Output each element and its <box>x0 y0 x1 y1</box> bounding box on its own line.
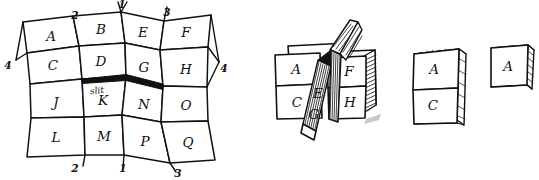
grid-label-D: D <box>95 53 107 69</box>
edge-number-right-4: 4 <box>220 62 227 74</box>
slit-label: slit <box>89 85 104 97</box>
grid-label-B: B <box>95 21 106 37</box>
grid-label-F: F <box>180 24 191 40</box>
stage-nearly-folded: A C <box>413 49 466 125</box>
unfolded-sheet: A B E F C D G H J K N O L M P Q slit 1 2… <box>4 0 227 179</box>
stage-partially-folded: A C E G F H <box>275 20 381 140</box>
edge-number-bottom-3: 3 <box>174 167 181 179</box>
tick-bottom-2 <box>83 155 85 166</box>
grid-label-P: P <box>139 133 150 149</box>
edge-number-bottom-1: 1 <box>119 162 126 174</box>
grid-label-C: C <box>48 57 59 73</box>
paper-folding-illustration: A B E F C D G H J K N O L M P Q slit 1 2… <box>0 0 539 180</box>
grid-label-M: M <box>96 128 112 144</box>
stage3-label-A: A <box>501 58 513 74</box>
figure-root: A B E F C D G H J K N O L M P Q slit 1 2… <box>0 0 539 180</box>
grid-label-O: O <box>180 97 191 113</box>
stage2-label-C: C <box>428 97 439 113</box>
edge-number-top-2: 2 <box>70 9 78 21</box>
stage1-label-A: A <box>289 61 301 77</box>
edge-number-bottom-2: 2 <box>70 162 78 174</box>
stage1-label-E: E <box>312 85 323 101</box>
grid-label-E: E <box>137 24 148 40</box>
grid-label-H: H <box>179 61 192 77</box>
tick-right-4b <box>207 62 219 87</box>
stage1-label-H: H <box>343 94 356 110</box>
tick-left-4 <box>16 22 23 60</box>
stage1-label-G: G <box>309 106 320 122</box>
stage2-bottom-edge <box>414 123 464 125</box>
grid-label-N: N <box>137 96 151 112</box>
tick-right-upper <box>211 15 219 62</box>
edge-number-top-3: 3 <box>163 6 170 18</box>
grid-label-L: L <box>51 129 61 145</box>
stage-fully-folded: A <box>491 45 534 89</box>
edge-number-left-4: 4 <box>4 59 11 71</box>
edge-number-top-1: 1 <box>118 0 125 10</box>
grid-label-Q: Q <box>182 134 193 150</box>
grid-label-G: G <box>139 59 150 75</box>
stage1-label-C: C <box>292 94 303 110</box>
stage2-label-A: A <box>427 61 439 77</box>
grid-label-A: A <box>44 28 56 44</box>
stage1-shadow <box>364 114 381 124</box>
stage1-label-F: F <box>343 63 354 79</box>
